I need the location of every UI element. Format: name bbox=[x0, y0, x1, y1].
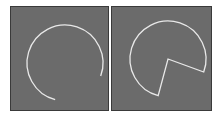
arc-panel bbox=[10, 6, 109, 111]
sector-panel bbox=[111, 6, 212, 111]
sector-shape bbox=[112, 7, 213, 112]
arc-shape bbox=[11, 7, 110, 112]
